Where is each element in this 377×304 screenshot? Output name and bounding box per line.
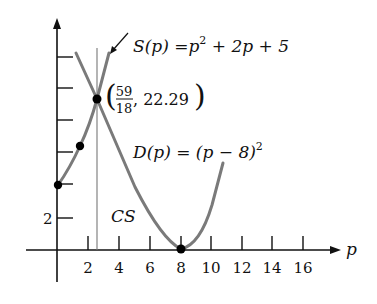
x-axis-label: p: [346, 239, 357, 259]
point-s1: [76, 142, 84, 150]
x-axis-arrow-icon: [330, 246, 341, 254]
y-axis-arrow-icon: [53, 18, 61, 29]
point-equilibrium: [93, 95, 102, 104]
svg-text:, 22.29: , 22.29: [133, 90, 189, 109]
y-ticks: [57, 57, 73, 218]
svg-text:16: 16: [293, 259, 312, 277]
y-tick-label-2: 2: [43, 210, 53, 228]
x-tick-labels: 2 4 6 8 10 12 14 16: [83, 259, 312, 277]
svg-text:): ): [194, 78, 206, 113]
consumer-surplus-label: CS: [111, 206, 136, 226]
svg-text:14: 14: [262, 259, 281, 277]
svg-text:8: 8: [176, 259, 186, 277]
svg-text:4: 4: [114, 259, 124, 277]
svg-text:10: 10: [201, 259, 220, 277]
demand-label: D(p) = (p − 8)2: [132, 140, 263, 162]
svg-text:12: 12: [232, 259, 251, 277]
equilibrium-label: ( 59 18 , 22.29 ): [105, 78, 206, 116]
svg-text:6: 6: [145, 259, 155, 277]
svg-text:59: 59: [116, 84, 133, 99]
point-s0: [54, 181, 62, 189]
svg-text:2: 2: [83, 259, 93, 277]
point-d-vertex: [177, 245, 186, 254]
supply-label: S(p) =p2 + 2p + 5: [133, 34, 289, 56]
s-label-pointer: [113, 33, 128, 50]
svg-text:18: 18: [116, 101, 133, 116]
chart-canvas: 2 4 6 8 10 12 14 16 2 p S(p) =p2 + 2p + …: [0, 0, 377, 304]
